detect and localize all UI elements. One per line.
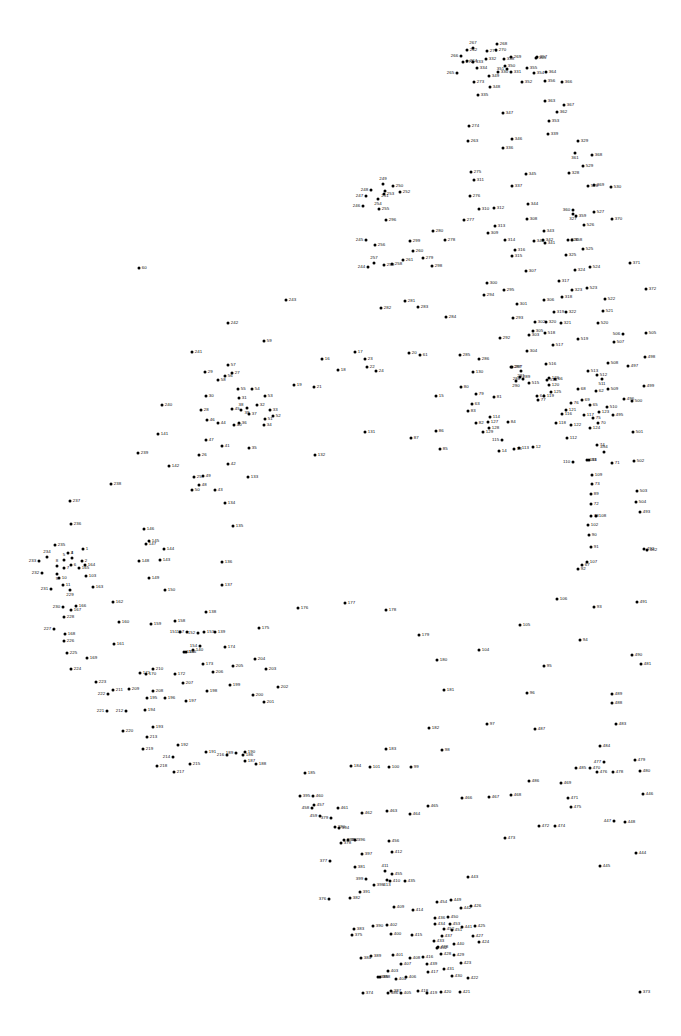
puzzle-dot-label: 216 (217, 753, 224, 757)
puzzle-dot (611, 693, 614, 696)
puzzle-dot (400, 963, 403, 966)
puzzle-dot-label: 335 (481, 93, 488, 97)
puzzle-dot (441, 749, 444, 752)
puzzle-dot (460, 55, 463, 58)
puzzle-dot-label: 294 (487, 293, 494, 297)
puzzle-dot-label: 424 (482, 940, 489, 944)
puzzle-dot (560, 322, 563, 325)
puzzle-dot-label: 338 (507, 57, 514, 61)
puzzle-dot-label: 484 (603, 744, 610, 748)
puzzle-dot (478, 649, 481, 652)
puzzle-dot-label: 361 (571, 156, 578, 160)
puzzle-dot-label: 425 (478, 924, 485, 928)
puzzle-dot (511, 366, 514, 369)
puzzle-dot-label: 52 (276, 414, 281, 418)
puzzle-dot-label: 130 (476, 370, 483, 374)
puzzle-dot (526, 218, 529, 221)
puzzle-dot (417, 306, 420, 309)
puzzle-dot (411, 934, 414, 937)
puzzle-dot-label: 80 (464, 385, 469, 389)
puzzle-dot-label: 441 (465, 925, 472, 929)
puzzle-dot (467, 977, 470, 980)
puzzle-dot-label: 420 (444, 990, 451, 994)
puzzle-dot (54, 544, 57, 547)
puzzle-dot (53, 628, 56, 631)
puzzle-dot (150, 623, 153, 626)
puzzle-dot (534, 321, 537, 324)
puzzle-dot-label: 118 (559, 421, 566, 425)
puzzle-dot-label: 452 (447, 927, 454, 931)
puzzle-dot (589, 266, 592, 269)
puzzle-dot-label: 17 (358, 350, 363, 354)
puzzle-dot-label: 494 (600, 445, 607, 449)
puzzle-dot-label: 37 (252, 412, 257, 416)
puzzle-dot (642, 793, 645, 796)
puzzle-dot-label: 283 (421, 305, 428, 309)
puzzle-dot-label: 448 (628, 820, 635, 824)
puzzle-dot-label: 367 (567, 103, 574, 107)
puzzle-dot (251, 388, 254, 391)
puzzle-dot (428, 727, 431, 730)
puzzle-dot (410, 766, 413, 769)
puzzle-dot (456, 72, 459, 75)
puzzle-dot (588, 534, 591, 537)
puzzle-dot (138, 267, 141, 270)
puzzle-dot-label: 460 (316, 794, 323, 798)
puzzle-dot (511, 185, 514, 188)
puzzle-dot (328, 898, 331, 901)
puzzle-dot-label: 320 (549, 320, 556, 324)
puzzle-dot (597, 322, 600, 325)
puzzle-dot (556, 111, 559, 114)
puzzle-dot-label: 450 (451, 915, 458, 919)
puzzle-dot (159, 559, 162, 562)
puzzle-dot-label: 331 (514, 70, 521, 74)
puzzle-dot-label: 120 (552, 383, 559, 387)
puzzle-dot (503, 289, 506, 292)
puzzle-dot (567, 239, 570, 242)
puzzle-dot (217, 379, 220, 382)
puzzle-dot (379, 976, 382, 979)
puzzle-dot-label: 43 (218, 488, 223, 492)
puzzle-dot (242, 754, 245, 757)
puzzle-dot (615, 723, 618, 726)
puzzle-dot-label: 116 (565, 412, 572, 416)
puzzle-dot (360, 957, 363, 960)
puzzle-dot-label: 402 (390, 923, 397, 927)
puzzle-dot (404, 880, 407, 883)
puzzle-dot (467, 410, 470, 413)
puzzle-dot-label: 379 (321, 816, 328, 820)
puzzle-dot (570, 402, 573, 405)
puzzle-dot (221, 445, 224, 448)
puzzle-dot (581, 399, 584, 402)
puzzle-dot-label: 124 (593, 426, 600, 430)
puzzle-dot (63, 640, 66, 643)
puzzle-dot-label: 511 (598, 382, 605, 386)
puzzle-dot-label: 458 (302, 806, 309, 810)
puzzle-dot-label: 138 (209, 610, 216, 614)
puzzle-dot-label: 209 (132, 687, 139, 691)
puzzle-dot-label: 503 (640, 489, 647, 493)
puzzle-dot-label: 313 (498, 224, 505, 228)
puzzle-dot (512, 317, 515, 320)
puzzle-dot-label: 328 (572, 171, 579, 175)
puzzle-dot-label: 95 (547, 664, 552, 668)
puzzle-dot-label: 395 (303, 794, 310, 798)
puzzle-dot-label: 183 (389, 747, 396, 751)
puzzle-dot-label: 46 (210, 418, 215, 422)
puzzle-dot (472, 935, 475, 938)
puzzle-dot (514, 249, 517, 252)
puzzle-dot (58, 577, 61, 580)
puzzle-dot (493, 207, 496, 210)
puzzle-dot-label: 397 (365, 852, 372, 856)
puzzle-dot-label: 359 (579, 214, 586, 218)
puzzle-dot (321, 358, 324, 361)
puzzle-dot (313, 386, 316, 389)
puzzle-dot-label: 282 (384, 306, 391, 310)
puzzle-dot (526, 692, 529, 695)
puzzle-dot-label: 122 (574, 423, 581, 427)
puzzle-dot-label: 377 (320, 859, 327, 863)
puzzle-dot-label: 472 (542, 824, 549, 828)
puzzle-dot-label: 318 (565, 295, 572, 299)
puzzle-dot (404, 300, 407, 303)
puzzle-dot-label: 257 (370, 256, 377, 260)
